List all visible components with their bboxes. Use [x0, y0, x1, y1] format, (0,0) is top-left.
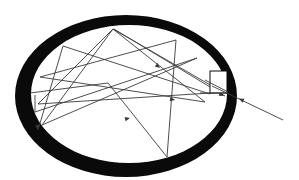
ray-segment — [108, 83, 167, 157]
ray-segment — [114, 29, 225, 96]
ray-paths — [30, 29, 226, 157]
ring-ray-figure — [0, 0, 299, 180]
arrow-icon — [125, 117, 130, 121]
ray-segment — [42, 58, 197, 125]
ray-diagram — [0, 0, 299, 180]
ray-segment — [38, 92, 226, 104]
ray-segment — [63, 46, 210, 94]
